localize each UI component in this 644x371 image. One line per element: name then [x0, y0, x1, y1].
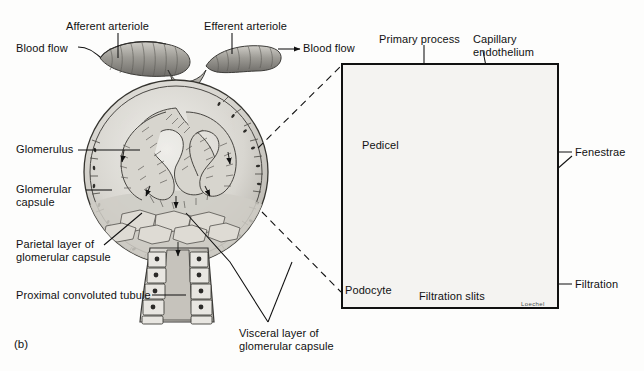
label-fenestrae: Fenestrae: [575, 146, 625, 159]
artist-signature: Loechel: [521, 301, 545, 307]
label-podocyte: Podocyte: [345, 284, 392, 297]
parietal-layer-cells: [90, 97, 263, 266]
label-blood-flow-left: Blood flow: [16, 42, 68, 55]
capillary-texture: [120, 114, 233, 209]
glomerular-capsule-body: [84, 80, 268, 266]
glomerular-tuft: [90, 108, 264, 265]
tubule-epithelial-cells-left: [142, 252, 166, 324]
label-pedicel: Pedicel: [362, 139, 399, 152]
renal-corpuscle-illustration: [84, 42, 281, 324]
visceral-layer-cells: [104, 210, 240, 244]
label-glomerulus: Glomerulus: [16, 143, 73, 156]
afferent-arteriole-vessel: [100, 42, 190, 77]
proximal-convoluted-tubule: [140, 242, 214, 324]
label-blood-flow-right: Blood flow: [303, 42, 355, 55]
leader-lines-left: [78, 33, 300, 322]
label-filtration: Filtration: [575, 278, 618, 291]
panel-label: (b): [14, 338, 28, 350]
label-efferent-arteriole: Efferent arteriole: [204, 20, 287, 33]
label-primary-process: Primary process: [379, 33, 460, 46]
tubule-cell-nuclei: [151, 257, 204, 310]
efferent-arteriole-vessel: [206, 46, 281, 73]
magnification-connector: [258, 66, 341, 292]
tubule-epithelial-cells-right: [190, 252, 212, 324]
label-filtration-slits: Filtration slits: [419, 290, 485, 303]
magnified-inset-frame: [341, 63, 559, 309]
blood-flow-arrows: [122, 150, 230, 208]
renal-corpuscle-figure: Afferent arteriole Efferent arteriole Bl…: [0, 0, 644, 371]
vascular-pole-stalk: [168, 70, 206, 110]
label-afferent-arteriole: Afferent arteriole: [66, 20, 149, 33]
label-proximal-convoluted-tubule: Proximal convoluted tubule: [16, 289, 151, 302]
parietal-cell-nuclei: [93, 101, 262, 258]
